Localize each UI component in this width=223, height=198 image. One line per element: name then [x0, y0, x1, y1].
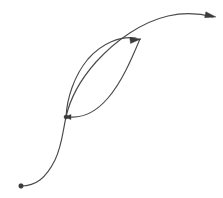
curve-sketch-diagram	[0, 0, 223, 198]
origin-dot-marker	[19, 184, 24, 189]
figure-canvas	[0, 0, 223, 198]
background-rect	[0, 0, 223, 198]
